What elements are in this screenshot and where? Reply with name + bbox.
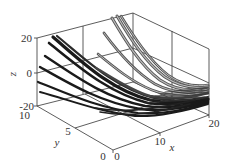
x-axis-label: x — [169, 141, 175, 153]
y-axis-label: y — [54, 136, 60, 148]
z-tick-0: 0 — [27, 67, 33, 79]
y-tick-5: 5 — [65, 125, 71, 137]
x-tick-10: 10 — [155, 135, 167, 147]
surface-plot-3d: 20 0 -20 z 10 5 0 y 0 10 20 x — [0, 0, 225, 163]
x-tick-20: 20 — [209, 117, 221, 129]
y-tick-10: 10 — [19, 109, 31, 121]
z-tick-20: 20 — [21, 32, 33, 44]
x-tick-0: 0 — [114, 150, 120, 162]
y-tick-0: 0 — [100, 150, 106, 162]
z-axis-label: z — [6, 71, 18, 77]
